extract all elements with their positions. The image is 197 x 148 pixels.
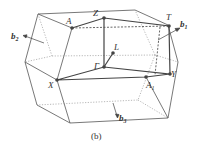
label-L: L (113, 42, 119, 52)
label-gamma: Γ (93, 61, 100, 71)
point-A1 (144, 75, 148, 79)
label-A1: A1 (145, 80, 155, 91)
b2-arrow-icon (25, 36, 44, 43)
dashed-path (72, 26, 169, 75)
point-Z (102, 16, 106, 20)
brillouin-zone-diagram: A Z T L Γ Y X A1 b1 b2 b3 (b) (0, 0, 197, 148)
label-A: A (65, 16, 72, 26)
point-X (55, 78, 59, 82)
hidden-edges (25, 10, 178, 118)
label-X: X (47, 80, 54, 90)
figure-caption: (b) (91, 131, 102, 141)
point-T (167, 24, 171, 28)
label-T: T (166, 12, 172, 22)
label-Z: Z (93, 8, 99, 18)
point-gamma (102, 65, 106, 69)
label-b2: b2 (11, 31, 19, 42)
b1-arrow-icon (158, 29, 178, 40)
label-b3: b3 (119, 113, 127, 124)
label-b1: b1 (180, 19, 188, 30)
point-A (70, 26, 74, 30)
